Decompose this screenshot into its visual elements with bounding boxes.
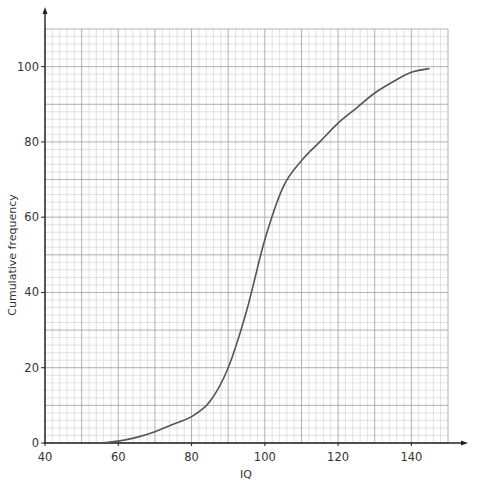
y-tick-label: 80 <box>24 135 39 149</box>
y-tick-label: 60 <box>24 210 39 224</box>
x-tick-labels: 406080100120140 <box>38 443 423 464</box>
y-tick-label: 20 <box>24 361 39 375</box>
x-tick-label: 60 <box>111 450 126 464</box>
y-axis-title: Cumulative frequency <box>6 194 19 316</box>
x-tick-label: 80 <box>184 450 199 464</box>
x-axis-title: IQ <box>240 468 252 481</box>
y-tick-label: 0 <box>32 436 39 450</box>
y-tick-label: 100 <box>17 60 39 74</box>
y-tick-labels: 020406080100 <box>17 60 45 450</box>
x-tick-label: 40 <box>38 450 53 464</box>
x-tick-label: 140 <box>400 450 422 464</box>
grid <box>45 29 448 443</box>
cumulative-frequency-chart: 406080100120140 020406080100 IQ Cumulati… <box>0 0 479 483</box>
x-tick-label: 100 <box>254 450 276 464</box>
y-tick-label: 40 <box>24 285 39 299</box>
x-tick-label: 120 <box>327 450 349 464</box>
